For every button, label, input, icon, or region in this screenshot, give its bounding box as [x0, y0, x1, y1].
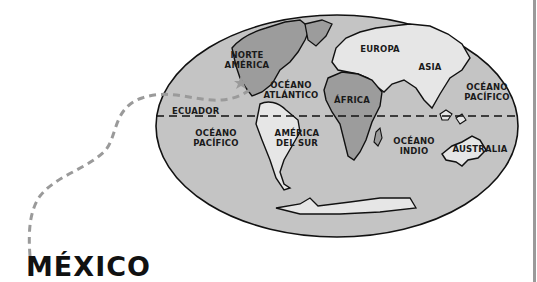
label-pacific-ocean-west: OCÉANO PACÍFICO: [186, 128, 246, 148]
label-australia: AUSTRALIA: [450, 144, 510, 154]
label-europe: EUROPA: [355, 44, 405, 54]
label-atlantic-ocean: OCÉANO ATLÁNTICO: [256, 80, 326, 100]
label-africa: ÁFRICA: [330, 95, 374, 105]
label-north-america: NORTE AMÉRICA: [222, 50, 272, 70]
label-asia: ASIA: [410, 62, 450, 72]
label-indian-ocean: OCÉANO INDIO: [386, 136, 442, 156]
page-title: MÉXICO: [26, 252, 151, 282]
right-border-rule: [533, 0, 536, 282]
label-pacific-ocean-east: OCÉANO PACÍFICO: [457, 82, 517, 102]
world-map-illustration: NORTE AMÉRICA EUROPA ASIA OCÉANO ATLÁNTI…: [0, 0, 537, 282]
label-equator: ECUADOR: [172, 106, 222, 116]
label-south-america: AMÉRICA DEL SUR: [267, 128, 327, 148]
